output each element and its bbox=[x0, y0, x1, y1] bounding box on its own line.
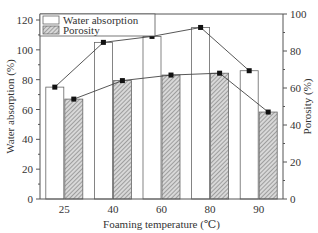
square-marker bbox=[71, 97, 76, 102]
x-tick-label: 80 bbox=[205, 203, 217, 215]
bar-water-absorption bbox=[240, 71, 258, 199]
y-tick-label: 40 bbox=[22, 133, 34, 145]
square-marker bbox=[169, 73, 174, 78]
y-right-tick-label: 20 bbox=[290, 156, 302, 168]
bar-porosity bbox=[259, 112, 277, 199]
legend-swatch-hatched bbox=[43, 26, 59, 34]
square-marker bbox=[266, 110, 271, 115]
x-tick-label: 25 bbox=[59, 203, 71, 215]
y-right-tick-label: 60 bbox=[290, 82, 302, 94]
bar-water-absorption bbox=[143, 36, 161, 199]
bar-porosity bbox=[65, 99, 83, 199]
y-right-tick-label: 0 bbox=[290, 193, 296, 205]
bar-porosity bbox=[162, 75, 180, 199]
x-tick-label: 40 bbox=[107, 203, 119, 215]
x-tick-label: 90 bbox=[253, 203, 265, 215]
x-tick-label: 60 bbox=[156, 203, 168, 215]
bar-water-absorption bbox=[94, 42, 112, 199]
y-tick-label: 60 bbox=[22, 104, 34, 116]
chart-svg: 0204060801001200204060801002540608090Foa… bbox=[0, 0, 318, 233]
square-marker bbox=[52, 85, 57, 90]
bar-porosity bbox=[113, 81, 131, 199]
legend-swatch-open bbox=[43, 16, 59, 24]
bar-water-absorption bbox=[192, 27, 210, 199]
bar-water-absorption bbox=[46, 87, 64, 199]
y-tick-label: 20 bbox=[22, 163, 34, 175]
x-axis-title: Foaming temperature (℃) bbox=[103, 218, 220, 231]
y-tick-label: 80 bbox=[22, 74, 34, 86]
y-right-tick-label: 80 bbox=[290, 45, 302, 57]
y-tick-label: 120 bbox=[17, 14, 34, 26]
y-tick-label: 0 bbox=[28, 193, 34, 205]
square-marker bbox=[120, 78, 125, 83]
y-right-tick-label: 100 bbox=[290, 8, 307, 20]
bars-layer bbox=[46, 27, 277, 199]
square-marker bbox=[101, 40, 106, 45]
chart-container: 0204060801001200204060801002540608090Foa… bbox=[0, 0, 318, 233]
y-tick-label: 100 bbox=[17, 44, 34, 56]
square-marker bbox=[198, 25, 203, 30]
square-marker bbox=[217, 71, 222, 76]
y-axis-title: Water absorption (%) bbox=[4, 59, 17, 154]
legend: Water absorptionPorosity bbox=[40, 14, 155, 36]
square-marker bbox=[247, 68, 252, 73]
y-right-tick-label: 40 bbox=[290, 119, 302, 131]
bar-porosity bbox=[211, 73, 229, 199]
legend-label: Porosity bbox=[63, 24, 100, 36]
lines-layer bbox=[52, 25, 270, 115]
y-right-axis-title: Porosity (%) bbox=[301, 78, 314, 134]
